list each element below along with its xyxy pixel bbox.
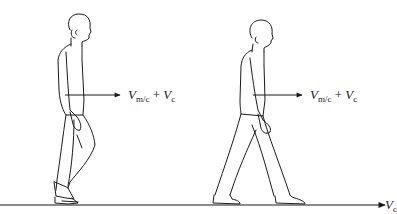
velocity-label-left: Vm/c + Vc [128,87,175,104]
label-sub: m/c [136,94,150,104]
label-v: V [385,197,393,212]
person-right [213,20,305,204]
conveyor-velocity-label: Vc [385,197,397,214]
label-sub2: c [171,94,175,104]
label-plus: + [335,87,342,102]
label-v: V [310,87,318,102]
label-sub2: c [353,94,357,104]
label-sub: c [393,204,397,214]
label-plus: + [153,87,160,102]
person-left [54,14,95,204]
velocity-label-right: Vm/c + Vc [310,87,357,104]
label-sub: m/c [318,94,332,104]
label-v: V [128,87,136,102]
walkway-diagram [0,0,397,214]
